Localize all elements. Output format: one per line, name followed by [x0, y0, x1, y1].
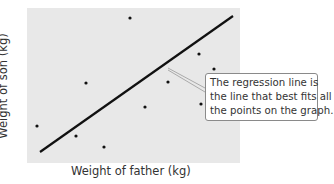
data-point — [166, 80, 169, 83]
data-point — [102, 145, 105, 148]
data-point — [128, 16, 131, 19]
x-axis-label: Weight of father (kg) — [71, 164, 191, 178]
y-axis-label: Weight of son (kg) — [0, 33, 10, 138]
data-point — [74, 134, 77, 137]
data-point — [199, 102, 202, 105]
data-point — [84, 81, 87, 84]
regression-callout: The regression line is the line that bes… — [205, 73, 318, 121]
callout-line: the line that best fits all — [210, 90, 313, 104]
callout-line: The regression line is — [210, 76, 313, 90]
data-point — [197, 52, 200, 55]
data-point — [212, 67, 215, 70]
callout-line: the points on the graph. — [210, 104, 313, 118]
data-point — [143, 105, 146, 108]
data-point — [35, 124, 38, 127]
